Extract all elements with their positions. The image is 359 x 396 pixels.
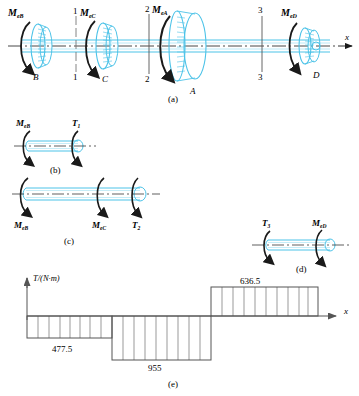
- chart-bar-ad: [211, 287, 318, 316]
- torque-arrow-meb-a: [21, 22, 30, 71]
- section-label-3-top: 3: [258, 5, 263, 15]
- torque-arrow-mec-c: [97, 178, 104, 214]
- torque-label-meb-b: MeB: [15, 118, 30, 129]
- chart-value-label-477: 477.5: [52, 344, 73, 354]
- chart-x-axis-label: x: [343, 306, 348, 316]
- torque-label-med-a: MeD: [280, 7, 298, 19]
- panel-d: T3 MeD (d): [252, 218, 352, 274]
- torque-label-t3-d: T3: [262, 218, 271, 229]
- section-label-1-top: 1: [73, 6, 78, 16]
- panel-caption-e: (e): [168, 379, 178, 389]
- pulley-label-b: B: [33, 72, 39, 82]
- pulley-label-a: A: [189, 86, 196, 96]
- panel-a: x MeB B 1 1: [7, 4, 352, 104]
- section-label-2-top: 2: [145, 4, 150, 14]
- panel-caption-b: (b): [50, 165, 61, 175]
- panel-c: MeB MeC T2 (c): [12, 178, 160, 246]
- torque-arrow-t3-d: [264, 231, 270, 261]
- torque-label-mec-a: MeC: [79, 7, 97, 19]
- torque-label-med-d: MeD: [311, 218, 326, 229]
- panel-caption-d: (d): [296, 264, 307, 274]
- pulley-label-c: C: [102, 74, 109, 84]
- chart-bar-ca: [112, 316, 211, 360]
- torque-arrow-med-d: [316, 230, 322, 263]
- torque-label-mea-a: MeA: [151, 4, 168, 16]
- torque-label-t1-b: T1: [72, 118, 81, 129]
- torque-arrow-med-a: [290, 23, 298, 70]
- section-label-2-bottom: 2: [145, 74, 150, 84]
- chart-value-label-636: 636.5: [240, 276, 261, 286]
- torque-arrow-meb-b: [23, 131, 30, 163]
- panel-e-torque-diagram: T/(N·m) x 477.5 955: [27, 273, 348, 389]
- torque-arrow-t2-c: [132, 178, 138, 214]
- torque-arrow-mec-a: [86, 21, 95, 74]
- torque-label-meb-c: MeB: [13, 220, 28, 231]
- section-label-3-bottom: 3: [258, 72, 263, 82]
- pulley-label-d: D: [312, 70, 320, 80]
- chart-y-axis-label: T/(N·m): [33, 273, 60, 283]
- panel-caption-a: (a): [168, 94, 178, 104]
- section-label-1-bottom: 1: [73, 72, 78, 82]
- axis-label-x-a: x: [344, 32, 349, 42]
- torque-arrow-meb-c: [21, 178, 29, 214]
- torque-label-mec-c: MeC: [91, 220, 106, 231]
- torsion-figure: x MeB B 1 1: [0, 0, 359, 396]
- chart-bar-bc: [27, 316, 112, 338]
- panel-b: MeB T1 (b): [14, 118, 96, 175]
- torque-label-t2-c: T2: [132, 220, 141, 231]
- panel-caption-c: (c): [64, 236, 74, 246]
- chart-value-label-955: 955: [148, 363, 162, 373]
- torque-label-meb-a: MeB: [7, 7, 24, 19]
